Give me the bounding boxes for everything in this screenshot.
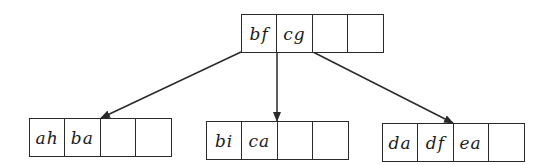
- left-child-node: ah ba: [29, 118, 172, 157]
- root-key-1: bf: [242, 15, 277, 52]
- edge-root-to-right-child: [313, 52, 453, 123]
- middle-child-key-4: [313, 122, 348, 159]
- right-child-key-3: ea: [454, 124, 489, 161]
- middle-child-key-3: [278, 122, 313, 159]
- b-tree-diagram: bf cg ah ba bi ca da df ea: [0, 0, 551, 165]
- edge-root-to-left-child: [101, 52, 241, 118]
- left-child-key-3: [101, 119, 136, 156]
- middle-child-key-1: bi: [207, 122, 242, 159]
- root-node: bf cg: [241, 14, 384, 53]
- root-key-4: [348, 15, 383, 52]
- left-child-key-1: ah: [30, 119, 65, 156]
- right-child-key-1: da: [383, 124, 418, 161]
- middle-child-node: bi ca: [206, 121, 349, 160]
- middle-child-key-2: ca: [242, 122, 277, 159]
- left-child-key-4: [136, 119, 171, 156]
- root-key-2: cg: [277, 15, 312, 52]
- right-child-node: da df ea: [382, 123, 525, 162]
- right-child-key-2: df: [418, 124, 453, 161]
- root-key-3: [313, 15, 348, 52]
- right-child-key-4: [489, 124, 524, 161]
- left-child-key-2: ba: [65, 119, 100, 156]
